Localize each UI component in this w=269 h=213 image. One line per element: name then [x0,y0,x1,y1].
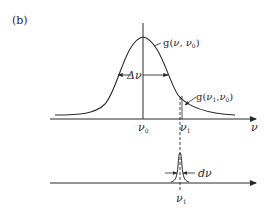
panel-label: (b) [12,14,28,27]
tick-label-nu0: ν0 [138,121,149,134]
point-label: g(ν1,ν0) [196,91,233,103]
figure-b: (b) Δν g(ν, ν0) g(ν1,ν0) ν0 [0,0,269,213]
delta-nu-label: Δν [126,69,142,82]
curve-label: g(ν, ν0) [163,37,200,49]
lineshape-curve [55,37,235,115]
diagram-canvas: (b) Δν g(ν, ν0) g(ν1,ν0) ν0 [0,0,269,213]
x-axis-label-nu: ν [251,121,258,134]
tick-label-nu1-upper: ν1 [180,121,191,134]
curve-label-leader [154,43,161,46]
tick-label-nu1-lower: ν1 [176,192,187,205]
dnu-label: dν [198,167,212,180]
point-label-arrow [185,97,196,105]
lower-x-axis-arrowhead-icon [250,180,257,186]
